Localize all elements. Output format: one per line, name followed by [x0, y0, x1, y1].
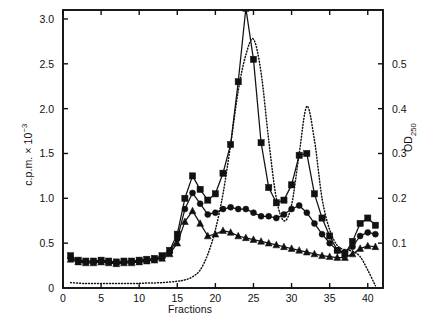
- y-tick-label-left: 2.5: [39, 58, 54, 70]
- data-point-marker: [289, 206, 295, 212]
- data-point-marker: [334, 247, 340, 253]
- data-point-marker: [182, 195, 188, 201]
- x-tick-label: 25: [248, 292, 260, 304]
- x-tick-label: 40: [362, 292, 374, 304]
- data-point-marker: [281, 197, 287, 203]
- series-line: [71, 39, 376, 286]
- data-point-marker: [304, 210, 310, 216]
- data-point-marker: [190, 190, 196, 196]
- y-tick-label-left: 1.5: [39, 147, 54, 159]
- data-point-marker: [228, 141, 234, 147]
- x-tick-label: 30: [286, 292, 298, 304]
- data-point-marker: [281, 211, 287, 217]
- data-point-marker: [311, 191, 317, 197]
- data-point-marker: [357, 233, 363, 239]
- y-tick-label-right: 0.2: [392, 192, 407, 204]
- data-point-marker: [304, 150, 310, 156]
- data-point-marker: [273, 215, 279, 221]
- data-point-marker: [258, 140, 264, 146]
- data-point-marker: [288, 182, 294, 188]
- y-tick-label-left: 0.5: [39, 237, 54, 249]
- y-axis-left-exponent: −3: [20, 124, 29, 133]
- x-axis-title: Fractions: [168, 303, 212, 315]
- y-axis-right-title-text: OD: [402, 136, 414, 152]
- data-point-marker: [243, 206, 249, 212]
- data-point-marker: [235, 79, 241, 85]
- data-point-marker: [197, 201, 203, 207]
- data-layer: [67, 5, 379, 286]
- data-point-marker: [266, 213, 272, 219]
- data-point-marker: [350, 244, 356, 250]
- data-point-marker: [296, 203, 302, 209]
- data-point-marker: [296, 152, 302, 158]
- data-point-marker: [182, 206, 188, 212]
- data-point-marker: [220, 206, 226, 212]
- data-point-marker: [205, 197, 211, 203]
- data-point-marker: [212, 210, 218, 216]
- data-point-marker: [258, 213, 264, 219]
- data-point-marker: [197, 186, 203, 192]
- data-point-marker: [273, 200, 279, 206]
- data-point-marker: [228, 204, 234, 210]
- data-point-marker: [365, 215, 371, 221]
- data-point-marker: [372, 222, 378, 228]
- data-point-marker: [205, 211, 211, 217]
- y-tick-label-right: 0.1: [392, 237, 407, 249]
- data-point-marker: [212, 191, 218, 197]
- data-point-marker: [327, 233, 333, 239]
- y-tick-label-left: 3.0: [39, 13, 54, 25]
- data-point-marker: [372, 231, 378, 237]
- x-tick-label: 10: [133, 292, 145, 304]
- data-point-marker: [266, 184, 272, 190]
- series-none: [71, 39, 376, 286]
- x-tick-label: 0: [60, 292, 66, 304]
- data-point-marker: [365, 229, 371, 235]
- data-point-marker: [357, 220, 363, 226]
- data-point-marker: [220, 170, 226, 176]
- x-tick-label: 35: [324, 292, 336, 304]
- y-axis-left-title: c.p.m. × 10−3: [20, 100, 34, 210]
- data-point-marker: [319, 231, 325, 237]
- y-axis-left-title-text: c.p.m. × 10: [22, 133, 34, 186]
- data-point-marker: [250, 210, 256, 216]
- series-square: [68, 5, 379, 265]
- data-point-marker: [220, 227, 227, 234]
- data-point-marker: [250, 56, 256, 62]
- data-point-marker: [189, 173, 195, 179]
- data-point-marker: [364, 242, 371, 249]
- y-tick-label-left: 1.0: [39, 192, 54, 204]
- data-point-marker: [235, 232, 242, 239]
- series-line: [71, 8, 376, 262]
- data-point-marker: [319, 215, 325, 221]
- chart-canvas: 051015202530354000.51.01.52.02.53.00.10.…: [0, 0, 428, 324]
- data-point-marker: [235, 206, 241, 212]
- y-tick-label-left: 0: [48, 282, 54, 294]
- figure-panel: 051015202530354000.51.01.52.02.53.00.10.…: [0, 0, 428, 324]
- y-axis-right-title: OD250: [402, 98, 417, 178]
- data-point-marker: [189, 207, 196, 214]
- data-point-marker: [212, 230, 219, 237]
- data-point-marker: [197, 220, 204, 227]
- data-point-marker: [311, 220, 317, 226]
- y-tick-label-left: 2.0: [39, 103, 54, 115]
- x-tick-label: 5: [98, 292, 104, 304]
- data-point-marker: [327, 240, 333, 246]
- y-tick-label-right: 0.5: [392, 58, 407, 70]
- y-axis-right-subscript: 250: [409, 123, 418, 136]
